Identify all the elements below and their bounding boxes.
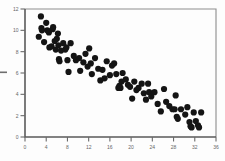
data-point: [55, 30, 61, 36]
data-point: [182, 112, 188, 118]
scan-artifact-dash-icon: [0, 72, 7, 74]
data-point: [113, 71, 119, 77]
data-point: [88, 60, 94, 66]
data-point: [131, 78, 137, 84]
x-tick-label: 8: [66, 144, 69, 150]
data-point: [196, 124, 202, 130]
data-point: [38, 13, 44, 19]
data-point: [39, 27, 45, 33]
data-point: [86, 45, 92, 51]
y-tick-label: 10: [13, 27, 19, 33]
data-point: [161, 86, 167, 92]
data-point: [173, 92, 179, 98]
data-point: [107, 72, 113, 78]
y-tick-label: 8: [16, 49, 19, 55]
data-point: [155, 101, 161, 107]
x-tick-label: 36: [213, 144, 219, 150]
x-tick-label: 28: [171, 144, 177, 150]
data-point: [198, 109, 204, 115]
data-point: [129, 96, 135, 102]
data-point: [111, 60, 117, 66]
data-point: [143, 97, 149, 103]
y-tick-label: 6: [16, 70, 19, 76]
data-point: [65, 69, 71, 75]
data-point: [172, 106, 178, 112]
x-tick-label: 16: [107, 144, 113, 150]
data-point: [68, 40, 74, 46]
data-point: [89, 71, 95, 77]
x-tick-label: 0: [24, 144, 27, 150]
y-axis-tick-labels: 024681012: [13, 6, 19, 140]
data-point: [77, 68, 83, 74]
scatter-plot-canvas: 04812162024283236 024681012: [0, 0, 225, 161]
data-point: [141, 90, 147, 96]
scan-artifact-dash-icon: [0, 72, 7, 74]
x-tick-label: 4: [45, 144, 48, 150]
data-point: [101, 75, 107, 81]
y-tick-label: 12: [13, 6, 19, 12]
data-point: [56, 58, 62, 64]
x-tick-label: 12: [86, 144, 92, 150]
data-point: [120, 70, 126, 76]
data-point: [139, 81, 145, 87]
data-point: [184, 104, 190, 110]
x-tick-label: 24: [150, 144, 156, 150]
data-point: [151, 89, 157, 95]
y-tick-label: 0: [16, 134, 19, 140]
x-tick-label: 20: [128, 144, 134, 150]
data-point: [36, 34, 42, 40]
data-point: [145, 81, 151, 87]
data-point: [175, 116, 181, 122]
y-tick-label: 4: [16, 91, 19, 97]
data-point-series: [36, 13, 205, 130]
data-point: [43, 20, 49, 26]
data-point: [54, 36, 60, 42]
data-point: [127, 84, 133, 90]
data-point: [178, 106, 184, 112]
x-tick-label: 32: [192, 144, 198, 150]
data-point: [82, 51, 88, 57]
data-point: [104, 58, 110, 64]
data-point: [123, 76, 129, 82]
data-point: [188, 124, 194, 130]
data-point: [64, 57, 70, 63]
x-axis-tick-labels: 04812162024283236: [24, 144, 219, 150]
data-point: [50, 24, 56, 30]
data-point: [158, 108, 164, 114]
data-point: [92, 55, 98, 61]
data-point: [41, 39, 47, 45]
y-tick-label: 2: [16, 113, 19, 119]
data-point: [191, 109, 197, 115]
data-point: [117, 85, 123, 91]
scatter-plot-figure: 04812162024283236 024681012: [0, 0, 225, 161]
data-point: [99, 67, 105, 73]
